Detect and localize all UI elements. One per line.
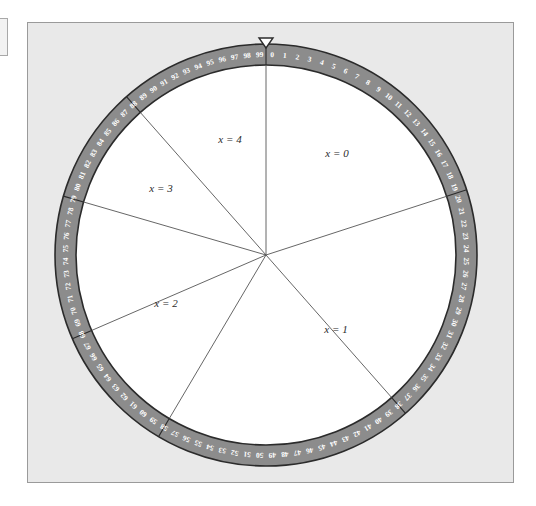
left-edge-crop-marker [0,18,8,56]
figure-panel [27,22,514,483]
